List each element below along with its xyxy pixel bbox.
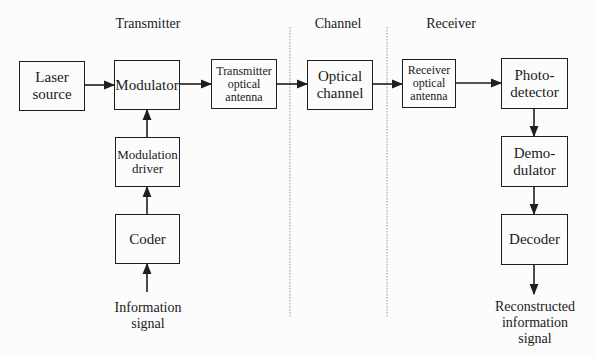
- block-modulation-driver: Modulation driver: [115, 137, 180, 187]
- block-transmitter-optical-antenna: Transmitter optical antenna: [211, 59, 277, 109]
- block-decoder-label: Decoder: [509, 231, 560, 248]
- block-photodetector-label: Photo- detector: [510, 67, 558, 101]
- block-receiver-optical-antenna: Receiver optical antenna: [402, 59, 456, 108]
- block-decoder: Decoder: [501, 214, 568, 265]
- block-optical-channel-label: Optical channel: [317, 68, 364, 102]
- output-reconstructed-signal-label: Reconstructed information signal: [486, 299, 584, 347]
- diagram-canvas: Transmitter Channel Receiver Laser sourc…: [0, 0, 596, 358]
- block-modulator: Modulator: [114, 60, 180, 110]
- input-information-signal-label: Information signal: [100, 300, 196, 332]
- block-laser-source: Laser source: [19, 61, 85, 111]
- block-receiver-optical-antenna-label: Receiver optical antenna: [408, 64, 451, 103]
- section-channel-heading: Channel: [306, 16, 370, 32]
- block-laser-source-label: Laser source: [32, 69, 71, 103]
- section-transmitter-heading: Transmitter: [108, 16, 188, 32]
- block-transmitter-optical-antenna-label: Transmitter optical antenna: [216, 65, 272, 104]
- block-demodulator: Demo- dulator: [501, 136, 568, 187]
- block-demodulator-label: Demo- dulator: [513, 145, 556, 179]
- block-coder: Coder: [115, 214, 180, 264]
- block-modulation-driver-label: Modulation driver: [117, 148, 178, 176]
- section-receiver-heading: Receiver: [416, 16, 486, 32]
- block-photodetector: Photo- detector: [501, 58, 568, 109]
- block-modulator-label: Modulator: [115, 77, 178, 94]
- block-coder-label: Coder: [129, 231, 166, 248]
- block-optical-channel: Optical channel: [307, 60, 373, 110]
